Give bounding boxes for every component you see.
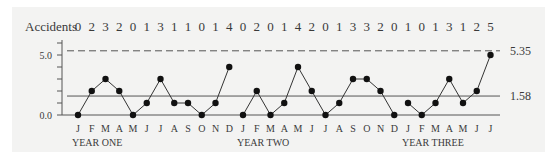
accident-count: 0	[199, 19, 206, 34]
data-point	[460, 100, 466, 106]
month-label: M	[294, 123, 303, 134]
accident-count: 3	[350, 19, 357, 34]
accident-count: 5	[487, 19, 494, 34]
month-label: J	[145, 123, 149, 134]
accident-count: 1	[460, 19, 467, 34]
series-line-1	[243, 67, 394, 115]
data-point	[281, 100, 287, 106]
accident-count: 3	[102, 19, 109, 34]
month-label: J	[159, 123, 163, 134]
month-label: A	[336, 123, 344, 134]
month-label: M	[431, 123, 440, 134]
accident-count: 2	[116, 19, 123, 34]
accident-count: 0	[267, 19, 274, 34]
data-point	[199, 112, 205, 118]
accident-count: 0	[240, 19, 247, 34]
accidents-row-label: Accidents	[25, 19, 77, 34]
accident-count: 0	[130, 19, 137, 34]
month-label: J	[76, 123, 80, 134]
month-label: S	[350, 123, 356, 134]
month-label: A	[281, 123, 289, 134]
month-label: N	[377, 123, 384, 134]
month-label: A	[116, 123, 124, 134]
series-line-2	[408, 55, 491, 115]
data-point	[254, 88, 260, 94]
month-label: J	[406, 123, 410, 134]
month-label: F	[89, 123, 95, 134]
y-tick-label: 0.0	[40, 110, 53, 121]
month-label: J	[310, 123, 314, 134]
series-line-0	[78, 67, 229, 115]
data-point	[144, 100, 150, 106]
month-label: A	[171, 123, 179, 134]
data-point	[419, 112, 425, 118]
center-line-label: 1.58	[510, 89, 531, 103]
accident-count: 3	[364, 19, 371, 34]
y-tick-label: 5.0	[40, 50, 53, 61]
accident-count: 4	[226, 19, 233, 34]
control-chart: 0.05.05.351.58Accidents0J2F3M2A0M1J3J1A1…	[0, 0, 559, 162]
accident-count: 1	[185, 19, 192, 34]
month-label: M	[266, 123, 275, 134]
accident-count: 2	[474, 19, 481, 34]
accident-count: 1	[144, 19, 151, 34]
data-point	[102, 76, 108, 82]
accident-count: 1	[336, 19, 343, 34]
data-point	[446, 76, 452, 82]
month-label: J	[475, 123, 479, 134]
data-point	[157, 76, 163, 82]
data-point	[322, 112, 328, 118]
data-point	[267, 112, 273, 118]
data-point	[75, 112, 81, 118]
accident-count: 2	[377, 19, 384, 34]
month-label: F	[419, 123, 425, 134]
data-point	[171, 100, 177, 106]
data-point	[432, 100, 438, 106]
month-label: F	[254, 123, 260, 134]
accident-count: 1	[212, 19, 219, 34]
data-point	[377, 88, 383, 94]
accident-count: 3	[157, 19, 164, 34]
month-label: M	[129, 123, 138, 134]
upper-control-limit-label: 5.35	[510, 44, 531, 58]
accident-count: 2	[254, 19, 261, 34]
month-label: D	[226, 123, 233, 134]
month-label: J	[324, 123, 328, 134]
accident-count: 2	[89, 19, 96, 34]
data-point	[116, 88, 122, 94]
month-label: J	[489, 123, 493, 134]
data-point	[240, 112, 246, 118]
accident-count: 0	[391, 19, 398, 34]
month-label: M	[459, 123, 468, 134]
data-point	[364, 76, 370, 82]
data-point	[295, 64, 301, 70]
month-label: J	[241, 123, 245, 134]
month-label: M	[101, 123, 110, 134]
data-point	[487, 52, 493, 58]
month-label: A	[446, 123, 454, 134]
data-point	[474, 88, 480, 94]
data-point	[309, 88, 315, 94]
accident-count: 2	[309, 19, 316, 34]
accident-count: 4	[295, 19, 302, 34]
accident-count: 1	[281, 19, 288, 34]
year-label: YEAR ONE	[72, 137, 122, 148]
year-label: YEAR THREE	[402, 137, 464, 148]
accident-count: 0	[322, 19, 329, 34]
data-point	[391, 112, 397, 118]
month-label: S	[185, 123, 191, 134]
data-point	[212, 100, 218, 106]
accident-count: 3	[446, 19, 453, 34]
month-label: N	[212, 123, 219, 134]
accident-count: 0	[75, 19, 82, 34]
month-label: D	[391, 123, 398, 134]
data-point	[405, 100, 411, 106]
data-point	[89, 88, 95, 94]
year-label: YEAR TWO	[237, 137, 289, 148]
data-point	[185, 100, 191, 106]
data-point	[336, 100, 342, 106]
data-point	[350, 76, 356, 82]
month-label: O	[198, 123, 205, 134]
data-point	[130, 112, 136, 118]
accident-count: 1	[432, 19, 439, 34]
